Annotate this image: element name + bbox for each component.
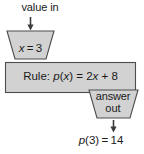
function-machine-diagram: value in x = 3 Rule: p(x) = 2x + 8 answe… bbox=[0, 0, 144, 154]
rule-text: Rule: p(x) = 2x + 8 bbox=[5, 71, 136, 83]
arrow-out-of-output-funnel-icon bbox=[110, 120, 116, 133]
arrow-into-input-funnel-icon bbox=[27, 17, 33, 31]
answer-label-line2: out bbox=[86, 103, 140, 114]
input-relation: = bbox=[27, 42, 34, 54]
value-in-label: value in bbox=[0, 2, 80, 13]
rule-function-name: p bbox=[53, 70, 59, 82]
input-value: 3 bbox=[36, 42, 42, 54]
result-output: 14 bbox=[111, 134, 124, 146]
result-function-name: p bbox=[79, 134, 85, 146]
result-input: 3 bbox=[89, 134, 95, 146]
rule-argument: x bbox=[63, 70, 69, 82]
answer-label-line1: answer bbox=[86, 91, 140, 102]
input-funnel-text: x = 3 bbox=[2, 43, 59, 55]
input-variable: x bbox=[19, 42, 25, 54]
rule-prefix: Rule: bbox=[23, 70, 50, 82]
result-text: p(3) = 14 bbox=[62, 135, 140, 147]
rule-expression: 2x + 8 bbox=[86, 70, 118, 82]
